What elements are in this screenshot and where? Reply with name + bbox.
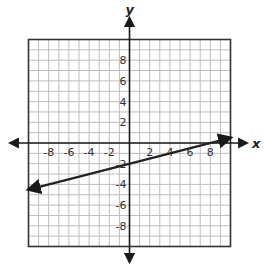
- coordinate-plane: x y -8-6-4-224688642-2-4-6-8: [0, 0, 269, 270]
- y-axis-label: y: [126, 2, 135, 17]
- y-tick-label: 6: [120, 75, 127, 88]
- y-tick-label: -6: [116, 199, 127, 212]
- y-tick-label: -4: [116, 178, 127, 191]
- y-tick-label: -8: [116, 220, 127, 233]
- x-tick-label: 8: [207, 146, 214, 159]
- x-tick-label: -8: [43, 146, 54, 159]
- x-tick-label: -4: [84, 146, 95, 159]
- y-tick-label: 4: [120, 96, 127, 109]
- y-tick-label: 2: [120, 116, 127, 129]
- y-tick-label: 8: [120, 54, 127, 67]
- x-axis-label: x: [251, 136, 261, 151]
- x-tick-label: -6: [63, 146, 74, 159]
- x-tick-label: -2: [104, 146, 115, 159]
